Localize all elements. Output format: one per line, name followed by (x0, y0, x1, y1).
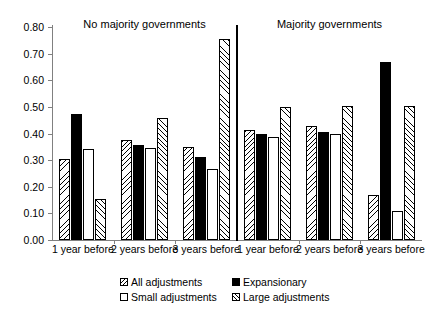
y-axis-tick-label: 0.70 (0, 48, 44, 59)
legend-item: Large adjustments (232, 291, 350, 303)
y-axis: 0.000.100.200.300.400.500.600.700.80 (0, 27, 52, 240)
bar (59, 159, 70, 240)
bar (219, 39, 230, 240)
x-axis-tick-mark (175, 240, 176, 244)
bar (83, 149, 94, 240)
bar (121, 140, 132, 240)
legend-swatch-icon (120, 293, 128, 301)
bar (404, 106, 415, 240)
bar (183, 147, 194, 240)
y-axis-tick-label: 0.00 (0, 235, 44, 246)
bar (145, 148, 156, 240)
bar (342, 106, 353, 240)
bar (157, 118, 168, 240)
bar (318, 132, 329, 240)
panel-divider (236, 25, 238, 241)
bar (133, 145, 144, 240)
bar (95, 199, 106, 240)
bar (256, 134, 267, 241)
legend-swatch-icon (232, 293, 240, 301)
x-axis-tick-mark (299, 240, 300, 244)
panel-title: No majority governments (52, 18, 237, 30)
y-axis-tick-label: 0.80 (0, 22, 44, 33)
bar (207, 169, 218, 240)
x-axis-tick-mark (360, 240, 361, 244)
legend-item: Small adjustments (120, 291, 232, 303)
chart-legend: All adjustmentsExpansionarySmall adjustm… (120, 276, 350, 303)
legend-item: All adjustments (120, 276, 232, 288)
y-axis-tick-label: 0.60 (0, 75, 44, 86)
bar (195, 157, 206, 240)
bar (392, 211, 403, 240)
x-axis-group-label: 3 years before (354, 244, 428, 256)
bar (330, 134, 341, 241)
y-axis-tick-label: 0.10 (0, 208, 44, 219)
legend-label: Large adjustments (243, 291, 329, 303)
y-axis-tick-label: 0.50 (0, 101, 44, 112)
bar (380, 62, 391, 240)
bar (268, 137, 279, 240)
legend-label: All adjustments (131, 276, 202, 288)
y-axis-tick-label: 0.30 (0, 155, 44, 166)
legend-label: Small adjustments (131, 291, 217, 303)
bar (368, 195, 379, 240)
bar (71, 114, 82, 240)
y-axis-tick-label: 0.20 (0, 181, 44, 192)
bar-chart: 0.000.100.200.300.400.500.600.700.80 All… (0, 0, 437, 314)
bar (280, 107, 291, 240)
legend-swatch-icon (120, 278, 128, 286)
legend-item: Expansionary (232, 276, 350, 288)
legend-swatch-icon (232, 278, 240, 286)
bar (244, 130, 255, 240)
y-axis-tick-label: 0.40 (0, 128, 44, 139)
panel-title: Majority governments (237, 18, 422, 30)
legend-label: Expansionary (243, 276, 307, 288)
x-axis-tick-mark (114, 240, 115, 244)
bar (306, 126, 317, 240)
